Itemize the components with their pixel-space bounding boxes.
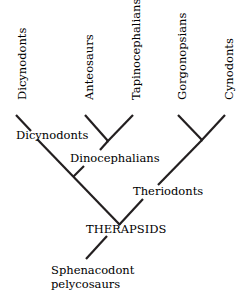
- branch-dinocephalians-lower: [73, 166, 84, 177]
- phylogenetic-tree: Dicynodonts Anteosaurs Tapinocephalians …: [0, 0, 249, 304]
- tip-label-anteosaurs: Anteosaurs: [82, 34, 96, 101]
- branch-theriodonts-upper: [158, 140, 202, 185]
- tip-label-dicynodonts: Dicynodonts: [15, 28, 29, 100]
- clade-label-therapsids: THERAPSIDS: [86, 222, 166, 236]
- outgroup-label-line2: pelycosaurs: [51, 277, 120, 291]
- clade-label-theriodonts: Theriodonts: [133, 184, 203, 198]
- tip-label-tapinocephalians: Tapinocephalians: [129, 0, 143, 100]
- branch-outgroup: [86, 236, 107, 259]
- clade-label-dicynodonts: Dicynodonts: [16, 128, 88, 142]
- clade-label-dinocephalians: Dinocephalians: [70, 151, 160, 165]
- branch-anteosaurs: [85, 115, 108, 141]
- tip-label-cynodonts: Cynodonts: [222, 38, 236, 100]
- branch-gorgonopsians: [178, 115, 202, 140]
- tip-label-gorgonopsians: Gorgonopsians: [175, 13, 189, 100]
- branch-tapinocephalians: [107, 115, 133, 142]
- outgroup-label-line1: Sphenacodont: [51, 263, 135, 277]
- branch-cynodonts: [201, 115, 225, 141]
- branch-dinocephalians-upper: [100, 141, 108, 150]
